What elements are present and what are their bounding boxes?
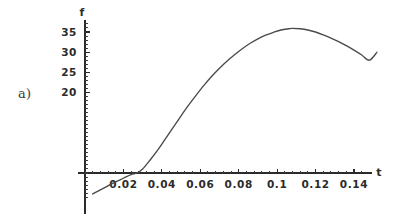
x-axis-tick-labels: 0.020.040.060.080.10.120.14 — [109, 178, 368, 190]
x-tick-label: 0.1 — [267, 178, 287, 190]
x-tick-label: 0.08 — [225, 178, 253, 190]
x-tick-label: 0.14 — [340, 178, 368, 190]
x-axis-ticks — [85, 169, 362, 174]
y-axis-label: f — [80, 6, 85, 19]
x-tick-label: 0.02 — [109, 178, 137, 190]
x-axis-label: t — [376, 166, 381, 179]
y-tick-label: 20 — [61, 86, 77, 98]
x-tick-label: 0.06 — [186, 178, 214, 190]
line-chart: 0.020.040.060.080.10.120.14 20253035 f t — [0, 0, 401, 221]
data-series-curve — [93, 28, 377, 194]
y-tick-label: 35 — [61, 26, 77, 38]
figure-panel: a) 0.020.040.060.080.10.120.14 20253035 … — [0, 0, 401, 221]
y-axis-ticks — [85, 24, 90, 197]
y-tick-label: 25 — [61, 66, 77, 78]
y-tick-label: 30 — [61, 46, 77, 58]
x-tick-label: 0.04 — [148, 178, 176, 190]
x-tick-label: 0.12 — [301, 178, 329, 190]
y-axis-tick-labels: 20253035 — [61, 26, 77, 98]
